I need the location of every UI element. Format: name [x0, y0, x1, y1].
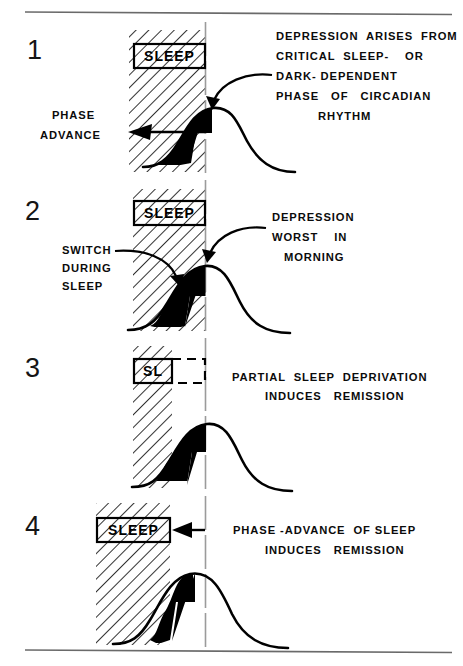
panel-1-annotation-line-4: PHASE OF CIRCADIAN [276, 91, 431, 102]
panel-3-annotation-line-1: PARTIAL SLEEP DEPRIVATION [232, 372, 427, 383]
panel-1-left-label-line-2: ADVANCE [40, 130, 101, 141]
panel-3 [132, 338, 292, 492]
panel-3-deprived-dashed-box [172, 359, 205, 383]
panel-3-number: 3 [25, 355, 40, 382]
panel-4-annotation-line-2: INDUCES REMISSION [265, 545, 405, 556]
panel-1-left-label-line-1: PHASE [52, 110, 95, 121]
panel-4-annotation-line-1: PHASE -ADVANCE OF SLEEP [233, 525, 416, 536]
panel-2-annotation-line-2: WORST IN [272, 232, 347, 243]
panel-1-annotation-line-1: DEPRESSION ARISES FROM [276, 31, 458, 42]
panel-1-number: 1 [27, 37, 42, 64]
panel-2-sleep-label: SLEEP [134, 205, 205, 221]
top-rule [25, 12, 452, 15]
panel-1-annotation-line-2: CRITICAL SLEEP- OR [276, 51, 424, 62]
panel-3-sleep-label: SL [134, 363, 172, 379]
panel-2-number: 2 [25, 198, 40, 225]
panel-1-annotation-line-5: RHYTHM [318, 111, 371, 122]
bottom-rule [25, 650, 452, 653]
panel-2-left-label-line-1: SWITCH [62, 245, 112, 256]
panel-2-annotation-line-1: DEPRESSION [272, 212, 354, 223]
panel-1 [128, 22, 295, 176]
panel-4-number: 4 [25, 513, 40, 540]
panel-4 [96, 496, 288, 650]
panel-2-annotation-leader [210, 227, 266, 253]
panel-4-sleep-label: SLEEP [97, 522, 170, 538]
panel-2-left-label-line-2: DURING [62, 263, 112, 274]
panel-4-advance-arrowhead [172, 522, 192, 538]
panel-1-sleep-label: SLEEP [134, 48, 205, 64]
panel-2-annotation-line-3: MORNING [284, 252, 344, 263]
panel-1-annotation-leader [214, 74, 272, 100]
panel-2 [115, 180, 290, 336]
panel-3-annotation-line-2: INDUCES REMISSION [265, 391, 405, 402]
panel-2-left-label-line-3: SLEEP [62, 281, 103, 292]
panel-1-annotation-line-3: DARK- DEPENDENT [276, 71, 398, 82]
